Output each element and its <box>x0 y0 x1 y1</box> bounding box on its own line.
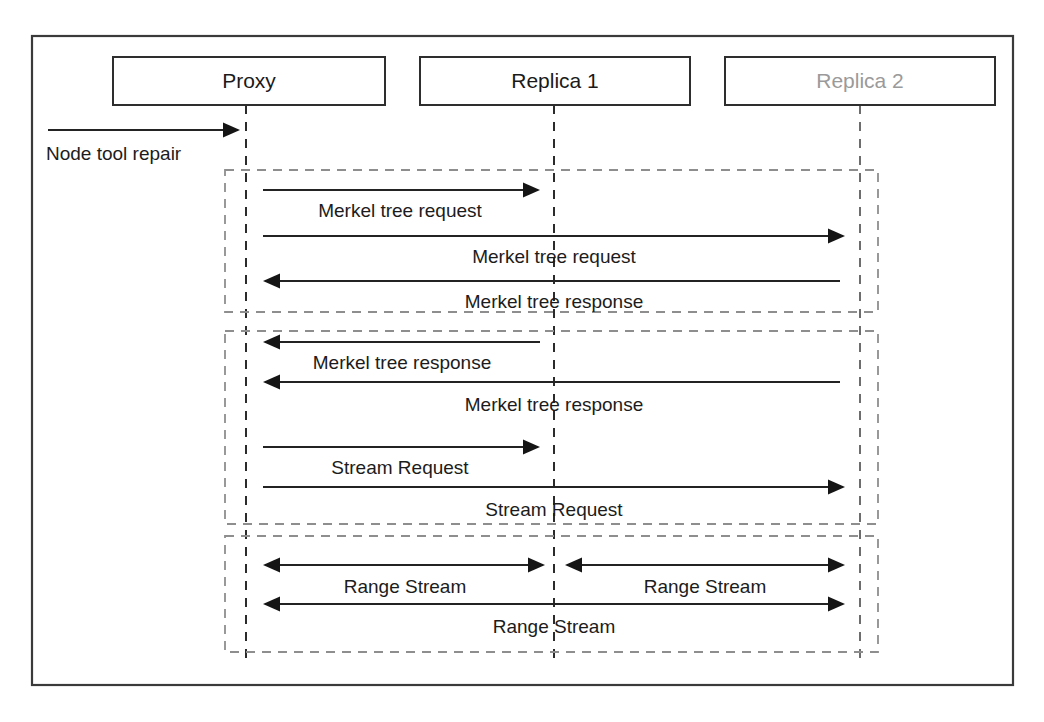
msg-range-stream-left-label: Range Stream <box>344 576 467 597</box>
msg-merkel-tree-request-2-label: Merkel tree request <box>472 246 636 267</box>
msg-stream-request-1-label: Stream Request <box>331 457 469 478</box>
msg-stream-request-2-label: Stream Request <box>485 499 623 520</box>
participant-replica2[interactable]: Replica 2 <box>725 57 995 105</box>
entry-message-node-tool-repair-label: Node tool repair <box>46 143 182 164</box>
sequence-diagram-root: Node tool repair Merkel tree requestMerk… <box>0 0 1044 722</box>
msg-merkel-tree-request-1-label: Merkel tree request <box>318 200 482 221</box>
participant-label-replica1: Replica 1 <box>511 69 599 92</box>
msg-merkel-tree-response-2-label: Merkel tree response <box>313 352 491 373</box>
participants-layer: ProxyReplica 1Replica 2 <box>113 57 995 105</box>
diagram-canvas: Node tool repair Merkel tree requestMerk… <box>0 0 1044 722</box>
msg-range-stream-full-label: Range Stream <box>493 616 616 637</box>
msg-range-stream-right-label: Range Stream <box>644 576 767 597</box>
participant-label-proxy: Proxy <box>222 69 276 92</box>
participant-proxy[interactable]: Proxy <box>113 57 385 105</box>
participant-label-replica2: Replica 2 <box>816 69 904 92</box>
diagram-frame <box>32 36 1013 685</box>
msg-merkel-tree-response-3-label: Merkel tree response <box>465 394 643 415</box>
msg-merkel-tree-response-1-label: Merkel tree response <box>465 291 643 312</box>
participant-replica1[interactable]: Replica 1 <box>420 57 690 105</box>
